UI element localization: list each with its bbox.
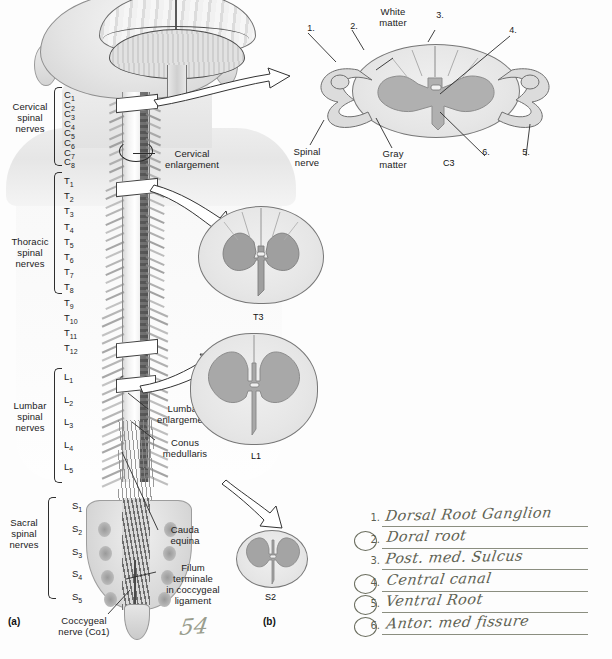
legend-number: 4. [358, 577, 380, 588]
legend-answer-text: Central canal [386, 569, 493, 587]
panel-label-a: (a) [8, 616, 20, 627]
section-label-t3-text: T3 [253, 312, 264, 322]
l1-gray-matter-shape [190, 333, 318, 445]
legend-answer-text: Antor. med fissure [386, 612, 531, 631]
section-label-l1-text: L1 [251, 451, 261, 461]
s2-gray-matter-shape [236, 530, 308, 588]
cross-section-l1 [190, 333, 318, 445]
marginalia-scribble: 54 [178, 613, 210, 640]
c3-leader-lines [280, 0, 612, 180]
legend-answer-text: Ventral Root [385, 591, 484, 609]
block-arrow-to-c3 [150, 70, 300, 120]
legend-answer-rule [382, 634, 588, 635]
t3-gray-matter-shape [198, 206, 324, 304]
cross-section-t3 [198, 206, 324, 304]
legend-number: 3. [358, 555, 380, 566]
legend-number: 1. [358, 512, 380, 523]
scanned-page: Cervical spinal nerves Thoracic spinal n… [0, 0, 612, 659]
legend-answer-text: Dorsal Root Ganglion [385, 504, 553, 523]
legend-number: 5. [358, 598, 380, 609]
legend-row-1: 1.Dorsal Root Ganglion [352, 508, 602, 531]
section-label-l1: L1 [251, 451, 261, 461]
cross-section-s2 [236, 530, 308, 588]
legend-answer-text: Post. med. Sulcus [385, 548, 524, 567]
legend-answer-rule [382, 526, 588, 527]
legend-number: 6. [358, 620, 380, 631]
handwritten-answer-legend: 1.Dorsal Root Ganglion2.Doral root3.Post… [352, 508, 604, 648]
legend-number: 2. [358, 534, 380, 545]
legend-row-6: 6.Antor. med fissure [352, 616, 602, 639]
section-label-t3: T3 [253, 312, 264, 322]
section-label-s2-text: S2 [265, 592, 276, 602]
legend-answer-text: Doral root [386, 527, 468, 545]
block-arrow-to-s2 [222, 484, 292, 536]
legend-answer-rule [382, 591, 588, 592]
section-label-s2: S2 [265, 592, 276, 602]
panel-label-b: (b) [263, 616, 276, 627]
